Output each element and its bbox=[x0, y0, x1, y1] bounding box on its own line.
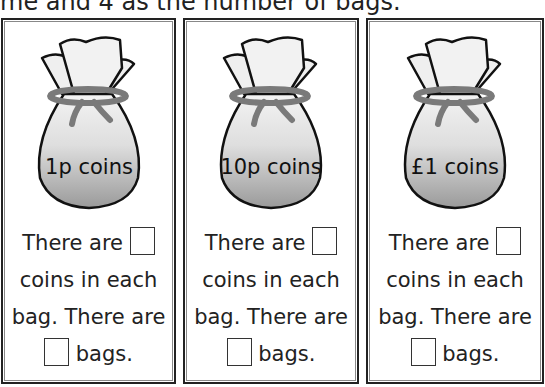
bag-label: 10p coins bbox=[220, 155, 321, 179]
money-bag-icon: 1p coins bbox=[3, 28, 174, 218]
coin-bag-card-10p: 10p coins There are coins in each bag. T… bbox=[183, 18, 359, 384]
answer-box-coins-per-bag[interactable] bbox=[312, 227, 337, 255]
answer-box-number-of-bags[interactable] bbox=[411, 338, 436, 366]
answer-box-number-of-bags[interactable] bbox=[44, 338, 69, 366]
bag-label: 1p coins bbox=[45, 155, 133, 179]
question-text: There are coins in each bag. There are b… bbox=[185, 225, 357, 373]
money-bag-icon: £1 coins bbox=[368, 28, 542, 218]
answer-box-coins-per-bag[interactable] bbox=[496, 227, 521, 255]
bag-label: £1 coins bbox=[411, 155, 499, 179]
coin-bag-card-1p: 1p coins There are coins in each bag. Th… bbox=[1, 18, 176, 384]
answer-box-number-of-bags[interactable] bbox=[227, 338, 252, 366]
answer-box-coins-per-bag[interactable] bbox=[130, 227, 155, 255]
money-bag-icon: 10p coins bbox=[185, 28, 357, 218]
question-text: There are coins in each bag. There are b… bbox=[3, 225, 174, 373]
question-text: There are coins in each bag. There are b… bbox=[368, 225, 542, 373]
instruction-text: me and 4 as the number of bags. bbox=[0, 0, 545, 16]
coin-bag-card-1-pound: £1 coins There are coins in each bag. Th… bbox=[366, 18, 544, 384]
